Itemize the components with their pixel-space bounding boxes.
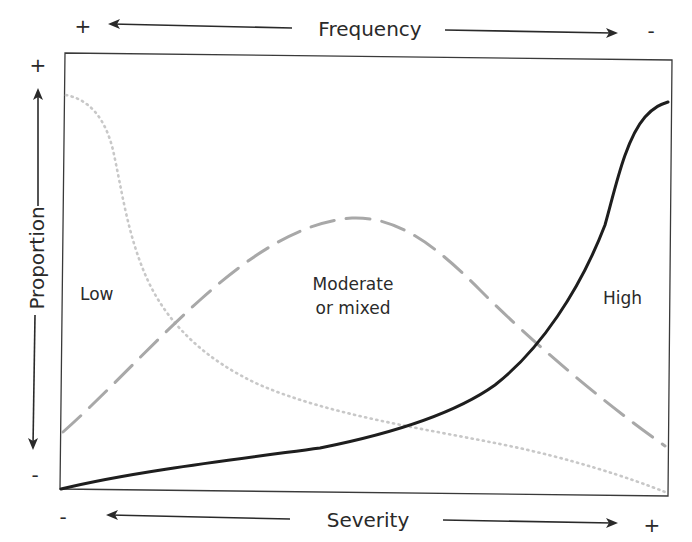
label-low: Low xyxy=(80,284,114,304)
frequency-arrow-right xyxy=(445,30,612,33)
proportion-arrow-down xyxy=(33,315,35,446)
frequency-axis-label: Frequency xyxy=(318,17,421,41)
severity-axis-label: Severity xyxy=(327,508,410,532)
proportion-minus-marker: - xyxy=(31,463,38,487)
label-moderate-line1: Moderate xyxy=(313,274,394,294)
label-high: High xyxy=(603,288,642,308)
frequency-minus-marker: - xyxy=(647,19,654,43)
series-moderate-curve xyxy=(63,218,665,446)
chart: Low Moderate or mixed High + Frequency -… xyxy=(0,0,692,542)
series-high-curve xyxy=(61,102,668,489)
severity-minus-marker: - xyxy=(59,505,66,529)
frequency-arrow-left xyxy=(112,24,292,28)
severity-arrow-left xyxy=(110,515,290,519)
severity-arrow-right xyxy=(443,520,612,523)
proportion-axis-label: Proportion xyxy=(25,206,49,309)
frequency-plus-marker: + xyxy=(75,14,92,38)
proportion-plus-marker: + xyxy=(30,53,47,77)
label-moderate-line2: or mixed xyxy=(316,298,391,318)
severity-plus-marker: + xyxy=(644,513,661,537)
